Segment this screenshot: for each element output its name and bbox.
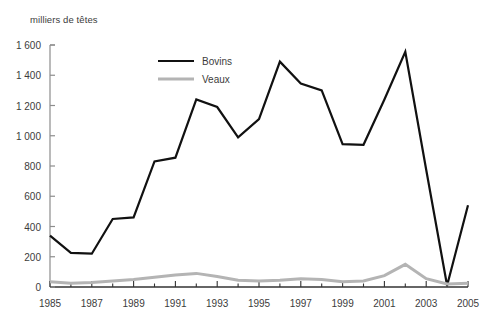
x-axis-tick-label: 1987: [81, 298, 103, 309]
y-axis-tick-label: 600: [0, 191, 41, 202]
x-axis-tick-label: 1985: [39, 298, 61, 309]
series-line-bovins: [50, 52, 468, 286]
x-axis-tick-label: 1995: [248, 298, 270, 309]
y-axis-tick-label: 1 400: [0, 70, 41, 81]
y-axis-tick-label: 400: [0, 221, 41, 232]
x-axis-tick-label: 1991: [164, 298, 186, 309]
legend-label-veaux: Veaux: [202, 74, 230, 85]
legend-swatches: [158, 61, 194, 79]
x-axis-tick-label: 2003: [415, 298, 437, 309]
x-axis-tick-label: 1997: [290, 298, 312, 309]
y-axis-tick-label: 800: [0, 161, 41, 172]
x-axis-tick-label: 1989: [122, 298, 144, 309]
series-line-veaux: [50, 264, 468, 284]
y-axis-tick-label: 1 600: [0, 40, 41, 51]
axes-group: [50, 45, 468, 287]
y-axis-tick-label: 0: [0, 282, 41, 293]
plot-area: [0, 0, 487, 321]
x-axis-tick-label: 2005: [457, 298, 479, 309]
x-axis-tick-label: 2001: [373, 298, 395, 309]
chart-container: milliers de têtes 02004006008001 0001 20…: [0, 0, 487, 321]
x-axis-tick-label: 1993: [206, 298, 228, 309]
y-axis-tick-label: 1 200: [0, 100, 41, 111]
legend-label-bovins: Bovins: [202, 56, 232, 67]
series-group: [50, 52, 468, 286]
y-axis-tick-label: 200: [0, 251, 41, 262]
x-axis-tick-label: 1999: [331, 298, 353, 309]
y-axis-tick-label: 1 000: [0, 130, 41, 141]
